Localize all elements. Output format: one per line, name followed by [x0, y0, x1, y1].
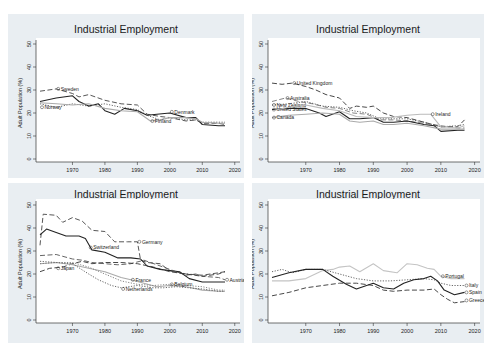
svg-text:10: 10	[258, 294, 264, 300]
svg-text:2020: 2020	[468, 328, 480, 334]
svg-text:1970: 1970	[66, 328, 78, 334]
svg-text:Austria: Austria	[230, 277, 244, 283]
svg-text:20: 20	[26, 271, 32, 277]
svg-text:40: 40	[26, 64, 32, 70]
svg-text:2020: 2020	[468, 167, 480, 173]
svg-text:Spain: Spain	[469, 289, 482, 295]
chart-plot: 01020304050197019801990200020102020Adult…	[8, 183, 244, 343]
svg-text:2000: 2000	[164, 328, 176, 334]
svg-text:0: 0	[26, 157, 32, 160]
svg-text:France: France	[135, 277, 151, 283]
svg-text:50: 50	[258, 202, 264, 208]
svg-text:50: 50	[26, 202, 32, 208]
svg-text:Adult Population (%): Adult Population (%)	[17, 239, 23, 289]
svg-text:Italy: Italy	[469, 282, 479, 288]
svg-text:1990: 1990	[367, 167, 379, 173]
svg-text:1980: 1980	[99, 328, 111, 334]
svg-text:1980: 1980	[99, 167, 111, 173]
svg-text:Sweden: Sweden	[61, 86, 79, 92]
svg-text:Denmark: Denmark	[174, 109, 195, 115]
svg-text:Portugal: Portugal	[445, 273, 464, 279]
svg-text:10: 10	[26, 294, 32, 300]
svg-text:Norway: Norway	[45, 104, 62, 110]
svg-text:Ireland: Ireland	[435, 111, 451, 117]
svg-text:0: 0	[26, 318, 32, 321]
svg-text:2020: 2020	[229, 167, 241, 173]
svg-text:40: 40	[258, 225, 264, 231]
svg-text:Canada: Canada	[277, 114, 295, 120]
svg-text:1980: 1980	[333, 167, 345, 173]
svg-text:2020: 2020	[229, 328, 241, 334]
svg-text:Switzerland: Switzerland	[93, 244, 119, 250]
svg-text:20: 20	[258, 110, 264, 116]
svg-text:1990: 1990	[131, 328, 143, 334]
svg-text:1970: 1970	[300, 328, 312, 334]
panel-mediterranean: Industrial Employment Mediterranean Coun…	[252, 183, 484, 343]
svg-text:40: 40	[26, 225, 32, 231]
svg-text:1990: 1990	[131, 167, 143, 173]
svg-text:Netherlands: Netherlands	[126, 286, 153, 292]
svg-text:30: 30	[258, 248, 264, 254]
svg-text:Adult Population (%): Adult Population (%)	[252, 78, 255, 128]
svg-text:50: 50	[26, 41, 32, 47]
svg-text:50: 50	[258, 41, 264, 47]
panel-continental: Industrial Employment Continental Countr…	[8, 183, 244, 343]
svg-text:Adult Population (%): Adult Population (%)	[252, 239, 255, 289]
svg-text:1970: 1970	[66, 167, 78, 173]
svg-text:Greece: Greece	[469, 297, 484, 303]
svg-text:Adult Population (%): Adult Population (%)	[17, 78, 23, 128]
svg-text:2000: 2000	[401, 328, 413, 334]
svg-text:2010: 2010	[435, 328, 447, 334]
svg-text:2010: 2010	[196, 328, 208, 334]
svg-text:30: 30	[26, 87, 32, 93]
svg-text:30: 30	[26, 248, 32, 254]
svg-text:Australia: Australia	[290, 95, 310, 101]
svg-text:2010: 2010	[435, 167, 447, 173]
panel-nordic: Industrial Employment Nordic Countries 0…	[8, 14, 244, 178]
svg-text:Germany: Germany	[142, 239, 163, 245]
svg-text:2010: 2010	[196, 167, 208, 173]
chart-plot: 01020304050197019801990200020102020Adult…	[252, 14, 484, 178]
svg-text:40: 40	[258, 64, 264, 70]
panel-liberal: Industrial Employment Liberal Countries …	[252, 14, 484, 178]
svg-text:2000: 2000	[164, 167, 176, 173]
svg-text:Japan: Japan	[61, 265, 75, 271]
chart-plot: 01020304050197019801990200020102020Adult…	[8, 14, 244, 178]
svg-text:Belgium: Belgium	[174, 281, 192, 287]
svg-text:Finland: Finland	[155, 118, 172, 124]
svg-text:United Kingdom: United Kingdom	[297, 80, 333, 86]
svg-text:20: 20	[26, 110, 32, 116]
svg-text:0: 0	[258, 157, 264, 160]
svg-text:2000: 2000	[401, 167, 413, 173]
svg-text:20: 20	[258, 271, 264, 277]
svg-text:10: 10	[26, 133, 32, 139]
svg-text:0: 0	[258, 318, 264, 321]
svg-text:10: 10	[258, 133, 264, 139]
svg-text:1990: 1990	[367, 328, 379, 334]
svg-text:30: 30	[258, 87, 264, 93]
svg-text:1980: 1980	[333, 328, 345, 334]
svg-text:1970: 1970	[300, 167, 312, 173]
chart-plot: 01020304050197019801990200020102020Adult…	[252, 183, 484, 343]
